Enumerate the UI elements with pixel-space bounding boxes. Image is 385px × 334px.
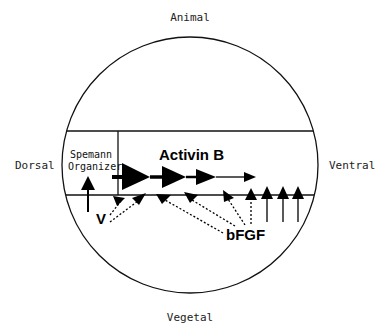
bfgf-arrowheads	[156, 188, 257, 204]
embryo-diagram: Spemann Organizer Activin B V bFGF	[0, 0, 385, 334]
bfgf-label: bFGF	[226, 226, 265, 243]
ventral-label: Ventral	[329, 159, 375, 172]
animal-label: Animal	[170, 11, 210, 24]
dorsal-label: Dorsal	[15, 159, 55, 172]
organizer-up-arrow	[81, 176, 95, 212]
organizer-label-line2: Organizer	[68, 161, 122, 172]
organizer-label-line1: Spemann	[70, 149, 112, 160]
v-label: V	[96, 210, 106, 227]
activin-label: Activin B	[159, 146, 224, 163]
activin-arrow-chain	[112, 163, 256, 190]
v-dotted-arrows	[110, 201, 138, 222]
ventral-up-arrows	[261, 186, 304, 222]
vegetal-label: Vegetal	[167, 311, 213, 324]
